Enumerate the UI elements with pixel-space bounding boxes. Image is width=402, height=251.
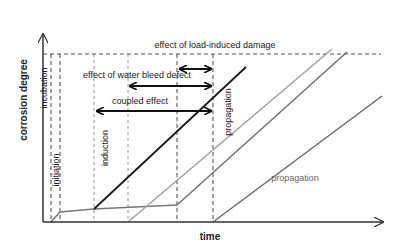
- induction-label: induction: [100, 130, 110, 166]
- initiation-label: initiation: [51, 153, 61, 186]
- incubation-label: incubation: [39, 67, 49, 108]
- water-bleed-effect-label: effect of water bleed defect: [83, 70, 191, 80]
- load-induced-propagation-line: [177, 52, 347, 205]
- initiation-baseline-curve: [51, 205, 177, 222]
- propagation-horizontal-label: propagation: [271, 173, 319, 183]
- propagation-vertical-label: propagation: [223, 88, 233, 136]
- corrosion-diagram: effect of load-induced damage effect of …: [0, 0, 402, 251]
- coupled-effect-label: coupled effect: [112, 96, 168, 106]
- x-axis-label: time: [200, 231, 221, 242]
- reference-propagation-line: [213, 96, 382, 222]
- y-axis-label: corrosion degree: [18, 59, 29, 141]
- load-induced-effect-label: effect of load-induced damage: [155, 40, 276, 50]
